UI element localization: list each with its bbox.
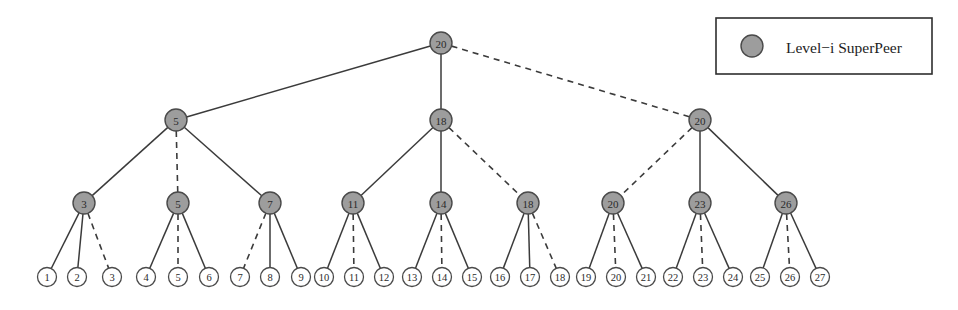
peer-node[interactable]: 11 <box>345 268 364 287</box>
legend-label: Level−i SuperPeer <box>786 39 903 56</box>
superpeer-node[interactable]: 20 <box>602 192 624 214</box>
peer-node[interactable]: 10 <box>315 268 334 287</box>
tree-edge-dashed <box>353 214 354 268</box>
peer-node[interactable]: 2 <box>68 268 87 287</box>
tree-edge-dashed <box>88 213 109 268</box>
peer-node-label: 20 <box>611 272 622 283</box>
peer-node-label: 19 <box>581 272 592 283</box>
tree-edge-dashed <box>613 214 615 268</box>
peer-node[interactable]: 4 <box>137 268 156 287</box>
peer-node-label: 3 <box>109 272 114 283</box>
superpeer-node-label: 20 <box>608 198 620 210</box>
edges-layer <box>51 46 816 268</box>
superpeer-node-label: 5 <box>175 198 181 210</box>
peer-node[interactable]: 18 <box>551 268 570 287</box>
superpeer-node[interactable]: 14 <box>430 192 452 214</box>
peer-node-label: 25 <box>755 272 766 283</box>
peer-node-label: 8 <box>267 272 272 283</box>
superpeer-node[interactable]: 18 <box>517 192 539 214</box>
peer-node-label: 9 <box>298 272 303 283</box>
peer-node-label: 18 <box>555 272 566 283</box>
superpeer-node[interactable]: 7 <box>259 192 281 214</box>
peer-node[interactable]: 19 <box>577 268 596 287</box>
tree-edge-solid <box>791 213 816 268</box>
tree-edge-solid <box>357 213 380 268</box>
tree-edge-solid <box>327 213 349 268</box>
peer-node[interactable]: 6 <box>200 268 219 287</box>
peer-node-label: 12 <box>379 272 390 283</box>
peer-node-label: 2 <box>74 272 79 283</box>
superpeer-node-label: 18 <box>523 198 535 210</box>
peer-node[interactable]: 7 <box>231 268 250 287</box>
peer-node-label: 13 <box>407 272 418 283</box>
peer-node[interactable]: 16 <box>491 268 510 287</box>
peer-node-label: 21 <box>641 272 652 283</box>
peer-node[interactable]: 13 <box>403 268 422 287</box>
peer-node-label: 24 <box>728 272 739 283</box>
peer-node[interactable]: 21 <box>637 268 656 287</box>
superpeer-node[interactable]: 20 <box>430 32 452 54</box>
tree-edge-solid <box>676 213 696 268</box>
tree-edge-solid <box>150 213 174 268</box>
peer-node[interactable]: 9 <box>292 268 311 287</box>
superpeer-node-label: 5 <box>173 115 179 127</box>
peer-node[interactable]: 20 <box>607 268 626 287</box>
peer-node[interactable]: 25 <box>751 268 770 287</box>
peer-node-label: 5 <box>175 272 180 283</box>
peer-node-label: 10 <box>319 272 330 283</box>
legend-superpeer-marker-icon <box>741 35 763 57</box>
peer-node[interactable]: 27 <box>811 268 830 287</box>
peer-node[interactable]: 8 <box>261 268 280 287</box>
peer-node[interactable]: 3 <box>103 268 122 287</box>
peer-node[interactable]: 22 <box>664 268 683 287</box>
superpeer-node-label: 14 <box>436 198 448 210</box>
superpeer-node[interactable]: 3 <box>73 192 95 214</box>
superpeer-node-label: 20 <box>695 115 707 127</box>
superpeer-node-label: 3 <box>81 198 87 210</box>
tree-edge-solid <box>184 127 262 195</box>
tree-edge-dashed <box>787 214 790 268</box>
tree-edge-dashed <box>532 213 556 268</box>
tree-edge-solid <box>503 213 524 268</box>
peer-node-label: 22 <box>668 272 679 283</box>
tree-edge-solid <box>361 128 433 196</box>
superpeer-node[interactable]: 23 <box>689 192 711 214</box>
peer-node[interactable]: 17 <box>521 268 540 287</box>
peer-node[interactable]: 1 <box>38 268 57 287</box>
peer-node[interactable]: 12 <box>375 268 394 287</box>
tree-edge-solid <box>445 213 468 268</box>
peer-node-label: 4 <box>143 272 149 283</box>
peer-node-label: 16 <box>495 272 506 283</box>
tree-edge-solid <box>78 214 83 268</box>
peer-node[interactable]: 15 <box>463 268 482 287</box>
superpeer-node[interactable]: 5 <box>165 109 187 131</box>
peer-node[interactable]: 24 <box>724 268 743 287</box>
superpeer-node[interactable]: 11 <box>342 192 364 214</box>
tree-edge-solid <box>528 214 529 268</box>
tree-edge-solid <box>51 213 79 269</box>
tree-edge-solid <box>763 213 782 268</box>
tree-diagram: 2051820357111418202326123456789101112131… <box>0 0 958 310</box>
superpeer-node[interactable]: 18 <box>430 109 452 131</box>
superpeer-node-label: 23 <box>695 198 707 210</box>
peer-node-label: 6 <box>206 272 211 283</box>
superpeer-node[interactable]: 26 <box>775 192 797 214</box>
peer-node-label: 1 <box>44 272 49 283</box>
nodes-layer: 2051820357111418202326123456789101112131… <box>38 32 830 287</box>
superpeer-node-label: 7 <box>267 198 273 210</box>
superpeer-node-label: 11 <box>348 198 359 210</box>
tree-edge-dashed <box>176 131 177 192</box>
peer-node[interactable]: 26 <box>781 268 800 287</box>
superpeer-node-label: 26 <box>781 198 793 210</box>
peer-node[interactable]: 5 <box>169 268 188 287</box>
peer-node[interactable]: 14 <box>433 268 452 287</box>
peer-node-label: 23 <box>698 272 709 283</box>
superpeer-node[interactable]: 20 <box>689 109 711 131</box>
superpeer-node-label: 18 <box>436 115 448 127</box>
tree-edge-dashed <box>441 214 442 268</box>
tree-edge-solid <box>274 213 297 268</box>
peer-node[interactable]: 23 <box>694 268 713 287</box>
superpeer-node[interactable]: 5 <box>167 192 189 214</box>
peer-node-label: 27 <box>815 272 826 283</box>
tree-edge-dashed <box>700 214 702 268</box>
